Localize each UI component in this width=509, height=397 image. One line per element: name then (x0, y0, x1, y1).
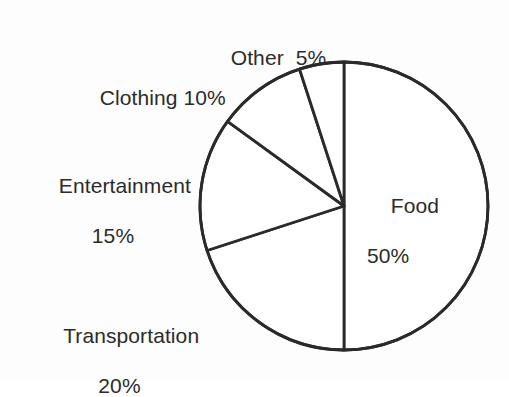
pie-label-entertainment: Entertainment 15% (29, 148, 197, 298)
pie-label-food-value: 50% (367, 243, 439, 268)
pie-label-transportation-value: 20% (27, 373, 212, 397)
pie-label-food-name: Food (391, 194, 439, 217)
pie-label-transportation-name: Transportation (63, 324, 199, 347)
pie-label-entertainment-name: Entertainment (59, 174, 191, 197)
pie-label-food: Food 50% (367, 168, 439, 318)
pie-label-transportation: Transportation 20% (27, 298, 212, 397)
pie-slice-group (200, 62, 488, 350)
pie-label-entertainment-value: 15% (29, 223, 197, 248)
pie-label-other-text: Other 5% (231, 46, 326, 69)
pie-label-clothing: Clothing 10% (76, 60, 226, 135)
pie-label-clothing-text: Clothing 10% (100, 86, 226, 109)
